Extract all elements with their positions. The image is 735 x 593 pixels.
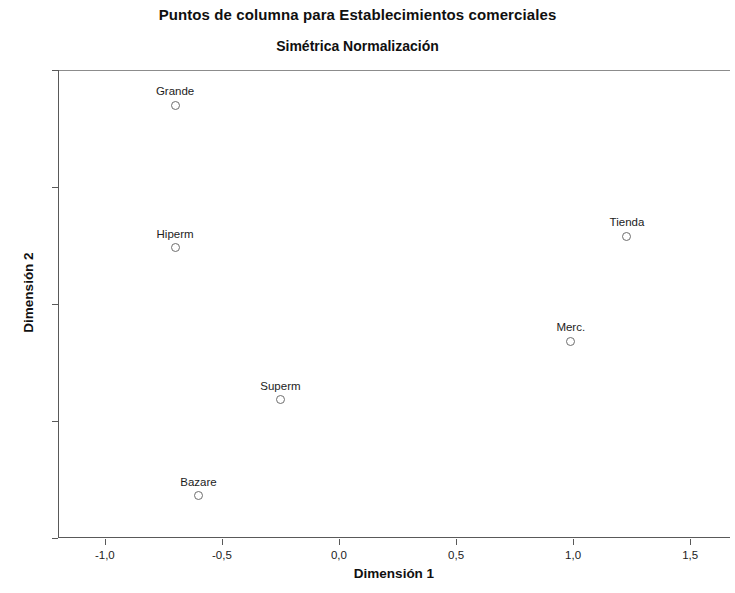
x-tick-label: -0,5 bbox=[192, 549, 252, 561]
data-point-marker bbox=[194, 491, 203, 500]
data-point-label: Superm bbox=[260, 380, 300, 392]
y-axis-line bbox=[58, 70, 59, 538]
plot-area: 1,00,50,0-0,5-1,0 -1,0-0,50,00,51,01,5 G… bbox=[58, 70, 730, 538]
data-point-label: Tienda bbox=[610, 216, 645, 228]
data-point-label: Hiperm bbox=[157, 228, 194, 240]
x-tick-mark bbox=[339, 539, 340, 545]
x-tick-mark bbox=[573, 539, 574, 545]
chart-figure: Puntos de columna para Establecimientos … bbox=[0, 0, 735, 593]
y-tick-mark bbox=[52, 187, 58, 188]
data-point-label: Merc. bbox=[556, 321, 585, 333]
x-tick-label: -1,0 bbox=[75, 549, 135, 561]
x-tick-label: 0,5 bbox=[426, 549, 486, 561]
y-tick-mark bbox=[52, 538, 58, 539]
plot-frame-bottom bbox=[58, 537, 730, 538]
y-tick-mark bbox=[52, 421, 58, 422]
y-tick-mark bbox=[52, 70, 58, 71]
data-point-marker bbox=[622, 232, 631, 241]
x-tick-mark bbox=[105, 539, 106, 545]
chart-title: Puntos de columna para Establecimientos … bbox=[0, 6, 715, 23]
data-point-marker bbox=[171, 243, 180, 252]
data-point-marker bbox=[171, 101, 180, 110]
data-point-marker bbox=[276, 395, 285, 404]
data-point-label: Grande bbox=[156, 85, 194, 97]
x-tick-mark bbox=[222, 539, 223, 545]
x-tick-mark bbox=[690, 539, 691, 545]
x-tick-label: 1,5 bbox=[660, 549, 720, 561]
data-point-marker bbox=[566, 337, 575, 346]
plot-frame-top bbox=[58, 70, 730, 71]
x-tick-mark bbox=[456, 539, 457, 545]
data-point-label: Bazare bbox=[180, 476, 216, 488]
x-tick-label: 1,0 bbox=[543, 549, 603, 561]
y-axis-title: Dimensión 2 bbox=[21, 143, 36, 443]
x-axis-title: Dimensión 1 bbox=[58, 566, 730, 581]
x-tick-label: 0,0 bbox=[309, 549, 369, 561]
chart-subtitle: Simétrica Normalización bbox=[0, 38, 715, 54]
y-tick-mark bbox=[52, 304, 58, 305]
